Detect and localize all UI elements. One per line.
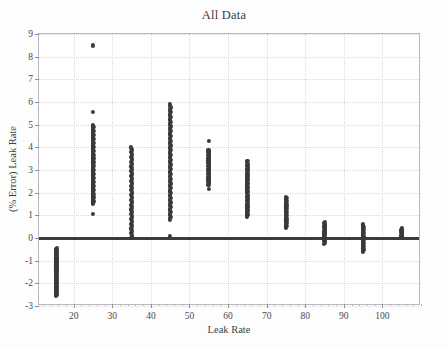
x-tick-minor	[375, 304, 376, 306]
x-tick-minor	[413, 304, 414, 306]
y-tick-mark	[35, 79, 39, 80]
y-tick-label: -1	[25, 256, 33, 266]
y-tick-mark	[35, 215, 39, 216]
x-axis-label: Leak Rate	[38, 324, 420, 335]
x-tick-minor	[205, 304, 206, 306]
x-tick-minor	[359, 304, 360, 306]
y-tick-mark	[35, 57, 39, 58]
data-point	[91, 110, 95, 114]
y-tick-label: 4	[28, 142, 33, 152]
y-tick-label: -3	[25, 301, 33, 311]
y-tick-label: 9	[28, 29, 33, 39]
chart-figure: All Data (% Error) Leak Rate -3-2-101234…	[0, 0, 448, 347]
y-tick-mark	[35, 193, 39, 194]
x-tick-minor	[143, 304, 144, 306]
x-tick-label: 80	[300, 311, 310, 321]
x-tick-minor	[336, 304, 337, 306]
y-tick-label: 5	[28, 120, 33, 130]
plot-area: -3-2-10123456789 2030405060708090100	[38, 33, 420, 305]
x-tick-minor	[244, 304, 245, 306]
y-tick-label: 3	[28, 165, 33, 175]
x-tick-minor	[367, 304, 368, 306]
x-tick-label: 70	[262, 311, 272, 321]
x-tick-minor	[128, 304, 129, 306]
x-tick-minor	[174, 304, 175, 306]
x-tick-label: 100	[375, 311, 389, 321]
x-tick-label: 30	[108, 311, 118, 321]
x-tick-minor	[81, 304, 82, 306]
y-tick-label: 2	[28, 188, 33, 198]
x-tick-label: 90	[339, 311, 349, 321]
x-tick-minor	[251, 304, 252, 306]
x-tick-mark	[382, 304, 383, 308]
gridline-vertical	[228, 34, 229, 304]
x-tick-minor	[166, 304, 167, 306]
x-tick-label: 40	[146, 311, 156, 321]
chart-title: All Data	[0, 8, 448, 23]
x-tick-minor	[159, 304, 160, 306]
x-tick-label: 50	[185, 311, 195, 321]
y-tick-mark	[35, 170, 39, 171]
y-tick-mark	[35, 125, 39, 126]
x-tick-minor	[51, 304, 52, 306]
x-tick-mark	[305, 304, 306, 308]
x-tick-minor	[390, 304, 391, 306]
x-tick-minor	[352, 304, 353, 306]
x-tick-minor	[105, 304, 106, 306]
y-tick-mark	[35, 306, 39, 307]
x-tick-minor	[406, 304, 407, 306]
x-tick-minor	[182, 304, 183, 306]
y-tick-mark	[35, 102, 39, 103]
x-tick-minor	[43, 304, 44, 306]
x-tick-mark	[74, 304, 75, 308]
x-tick-minor	[274, 304, 275, 306]
x-tick-mark	[112, 304, 113, 308]
x-tick-minor	[328, 304, 329, 306]
x-tick-minor	[290, 304, 291, 306]
x-tick-minor	[398, 304, 399, 306]
x-tick-minor	[321, 304, 322, 306]
gridline-vertical	[344, 34, 345, 304]
y-tick-mark	[35, 34, 39, 35]
y-tick-label: 8	[28, 52, 33, 62]
x-tick-mark	[228, 304, 229, 308]
x-tick-minor	[89, 304, 90, 306]
x-tick-minor	[313, 304, 314, 306]
y-tick-label: 6	[28, 97, 33, 107]
y-tick-mark	[35, 283, 39, 284]
x-tick-minor	[220, 304, 221, 306]
y-tick-mark	[35, 261, 39, 262]
x-tick-minor	[282, 304, 283, 306]
x-tick-mark	[151, 304, 152, 308]
y-axis-label: (% Error) Leak Rate	[7, 94, 18, 244]
x-tick-minor	[421, 304, 422, 306]
data-point	[91, 43, 95, 47]
x-tick-minor	[66, 304, 67, 306]
y-tick-mark	[35, 147, 39, 148]
data-point	[207, 187, 211, 191]
x-tick-minor	[213, 304, 214, 306]
x-tick-mark	[189, 304, 190, 308]
gridline-vertical	[112, 34, 113, 304]
x-tick-minor	[135, 304, 136, 306]
x-tick-minor	[197, 304, 198, 306]
y-tick-label: 0	[28, 233, 33, 243]
gridline-vertical	[267, 34, 268, 304]
x-tick-mark	[344, 304, 345, 308]
y-tick-label: 1	[28, 210, 33, 220]
y-tick-label: -2	[25, 278, 33, 288]
x-tick-minor	[120, 304, 121, 306]
data-point	[207, 138, 211, 142]
x-tick-label: 20	[69, 311, 79, 321]
y-tick-label: 7	[28, 74, 33, 84]
x-tick-minor	[236, 304, 237, 306]
gridline-vertical	[305, 34, 306, 304]
gridline-vertical	[151, 34, 152, 304]
x-tick-label: 60	[223, 311, 233, 321]
x-tick-minor	[298, 304, 299, 306]
gridline-vertical	[74, 34, 75, 304]
gridline-vertical	[189, 34, 190, 304]
x-tick-mark	[267, 304, 268, 308]
gridline-vertical	[382, 34, 383, 304]
y-tick-mark	[35, 238, 39, 239]
